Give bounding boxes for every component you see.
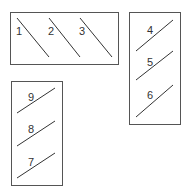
panel-border	[12, 82, 63, 186]
stroke-number-label: 5	[147, 56, 153, 68]
stroke-number-label: 9	[28, 91, 34, 103]
panel-bottom-left-vertical: 987	[12, 82, 63, 186]
stroke-number-label: 4	[147, 24, 153, 36]
panel-top-horizontal: 123	[11, 13, 119, 65]
diagonal-stroke-5	[136, 51, 173, 80]
stroke-number-label: 3	[79, 25, 85, 37]
panel-right-vertical: 456	[130, 13, 181, 125]
diagonal-stroke-1	[17, 18, 49, 57]
panel-border	[130, 13, 181, 125]
stroke-number-label: 8	[28, 123, 34, 135]
panel-border	[11, 13, 119, 65]
diagonal-stroke-4	[136, 20, 173, 51]
diagonal-stroke-7	[17, 153, 55, 178]
stroke-number-label: 7	[28, 156, 34, 168]
diagonal-stroke-3	[80, 18, 112, 57]
diagonal-stroke-6	[136, 85, 173, 117]
stroke-number-label: 1	[16, 25, 22, 37]
stroke-number-label: 6	[147, 89, 153, 101]
diagram-canvas: 123456987	[0, 0, 190, 196]
diagonal-stroke-9	[17, 88, 55, 113]
diagonal-stroke-8	[17, 121, 55, 146]
diagonal-stroke-2	[49, 18, 80, 57]
stroke-number-label: 2	[48, 25, 54, 37]
